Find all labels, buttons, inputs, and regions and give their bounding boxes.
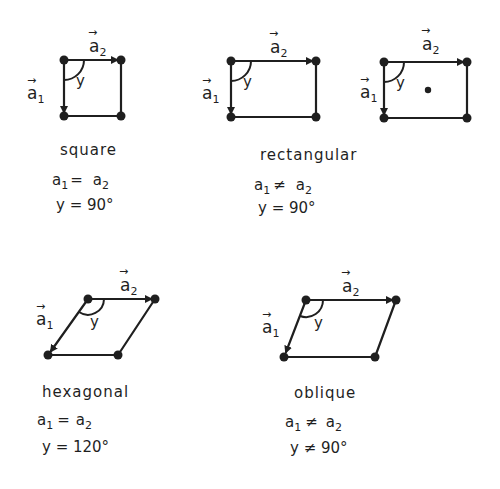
angle-label: y [396,74,405,92]
lattice-name: square [60,141,117,159]
vector-arrow-icon: → [36,300,45,313]
a2-label: a2 [89,36,106,59]
hexagonal-caption: hexagonal a1=a2 y = 120° [37,383,129,456]
a2-label: a2 [120,275,137,298]
lattice-point [117,112,126,121]
cell-edge [375,300,396,357]
lattice-name: rectangular [260,146,357,164]
length-relation: a1=a2 [52,171,109,192]
oblique-caption: oblique a1≠a2 y ≠ 90° [285,384,356,457]
a2-label: a2 [422,34,439,57]
lattice-point [227,57,236,66]
a1-vector-arrow [286,300,306,352]
vector-arrow-icon: → [27,74,36,87]
lattice-point [463,114,472,123]
angle-label: y [243,73,252,91]
angle-label: y [76,72,85,90]
rectangular-caption: rectangular a1≠a2 y = 90° [254,146,357,217]
angle-relation: y = 120° [42,438,109,456]
lattice-point [84,295,93,304]
lattice-point [227,113,236,122]
vector-arrow-icon: → [269,27,278,40]
lattice-diagram: a2 → a1 → y square a1=a2 y = 90° a2 → a1… [0,0,500,489]
lattice-point [392,296,401,305]
cell-edge [118,299,155,355]
angle-relation: y = 90° [258,199,316,217]
lattice-point [114,351,123,360]
lattice-point [380,58,389,67]
lattice-point [44,351,53,360]
length-relation: a1≠a2 [285,413,342,434]
lattice-point [60,56,69,65]
lattice-point [312,57,321,66]
angle-relation: y = 90° [56,196,114,214]
lattice-name: hexagonal [42,383,129,401]
length-relation: a1≠a2 [254,176,312,197]
center-lattice-point [425,87,431,93]
angle-label: y [90,313,99,331]
vector-arrow-icon: → [421,24,430,37]
lattice-point [151,295,160,304]
a1-vector-arrow [51,299,88,351]
lattice-name: oblique [294,384,356,402]
a2-label: a2 [270,37,287,60]
square-caption: square a1=a2 y = 90° [52,141,117,214]
vector-arrow-icon: → [88,26,97,39]
length-relation: a1=a2 [37,411,92,432]
oblique-lattice-cell: a2 → a1 → y [262,266,401,362]
lattice-point [117,56,126,65]
angle-label: y [314,314,323,332]
lattice-point [380,114,389,123]
a2-label: a2 [342,276,359,299]
vector-arrow-icon: → [119,265,128,278]
square-lattice-cell: a2 → a1 → y [27,26,126,121]
vector-arrow-icon: → [202,74,211,87]
rectangular-lattice-cell: a2 → a1 → y [202,27,321,122]
lattice-point [302,296,311,305]
vector-arrow-icon: → [360,73,369,86]
lattice-point [60,112,69,121]
vector-arrow-icon: → [341,266,350,279]
centered-rectangular-lattice-cell: a2 → a1 → y [360,24,472,123]
lattice-point [280,353,289,362]
lattice-point [371,353,380,362]
hexagonal-lattice-cell: a2 → a1 → y [36,265,160,360]
angle-relation: y ≠ 90° [290,439,348,457]
lattice-point [463,58,472,67]
lattice-point [312,113,321,122]
vector-arrow-icon: → [262,308,271,321]
